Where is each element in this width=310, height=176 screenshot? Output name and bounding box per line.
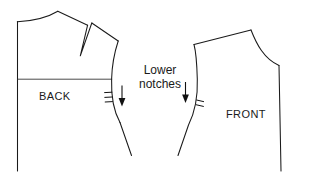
back-notch-arrow-head	[119, 98, 126, 107]
front-piece-label: FRONT	[226, 108, 266, 120]
back-side-seam	[120, 123, 132, 156]
shoulder-dart	[80, 23, 92, 56]
lower-notches-annotation: Lower notches	[118, 64, 202, 92]
back-shoulder-seam-inner	[58, 11, 88, 25]
front-shoulder-seam	[194, 30, 251, 45]
back-piece-label: BACK	[39, 90, 71, 102]
front-neckline	[251, 30, 279, 66]
front-armhole	[178, 45, 197, 156]
back-shoulder-seam-outer	[92, 23, 118, 41]
front-notch-tick-1	[197, 100, 204, 102]
front-bodice-piece	[178, 30, 281, 171]
sewing-pattern-diagram: BACK FRONT Lower notches	[0, 0, 310, 176]
lower-notches-line-1: Lower	[118, 64, 202, 78]
center-front-line	[279, 66, 281, 172]
front-notch-arrow-head	[182, 95, 189, 104]
front-notch-tick-2	[196, 105, 203, 107]
back-neckline	[18, 11, 58, 22]
lower-notches-line-2: notches	[118, 78, 202, 92]
back-bodice-piece	[18, 11, 132, 171]
